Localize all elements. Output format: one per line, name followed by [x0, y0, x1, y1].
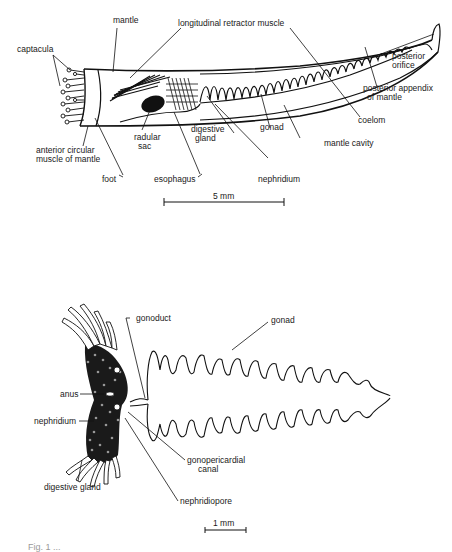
label-anterior-circular-2: muscle of mantle	[36, 155, 100, 164]
label-longitudinal-retractor-muscle: longitudinal retractor muscle	[178, 19, 284, 28]
label-posterior-orifice-2: orifice	[392, 61, 415, 70]
top-leader-lines	[53, 28, 434, 177]
label-nephridium-top: nephridium	[258, 175, 300, 184]
radular-sac-shape	[139, 92, 167, 115]
label-foot: foot	[102, 175, 116, 184]
scale-bar-label-bottom: 1 mm	[213, 519, 234, 528]
label-mantle-cavity: mantle cavity	[324, 139, 374, 148]
label-esophagus: esophagus	[154, 175, 196, 184]
label-gonoduct: gonoduct	[136, 314, 171, 323]
label-mantle: mantle	[113, 16, 139, 25]
label-digestive-gland-bottom: digestive gland	[44, 483, 101, 492]
label-anus: anus	[60, 390, 78, 399]
label-captacula: captacula	[17, 45, 53, 54]
gonad-outline	[130, 351, 390, 441]
label-gonopericardial-2: canal	[198, 465, 218, 474]
top-body-drawing	[80, 24, 440, 126]
label-digestive-gland-2: gland	[195, 134, 216, 143]
label-posterior-appendix-2: of mantle	[367, 93, 402, 102]
captacula-tentacles	[61, 68, 84, 124]
scale-bar-label-top: 5 mm	[213, 192, 234, 201]
label-nephridium-bottom: nephridium	[34, 417, 76, 426]
label-gonad-bottom: gonad	[271, 316, 295, 325]
label-coelom: coelom	[358, 116, 385, 125]
digestive-gland-mass	[85, 344, 128, 463]
figure-caption: Fig. 1 ...	[28, 542, 61, 552]
label-nephridiopore: nephridiopore	[180, 497, 232, 506]
label-radular-sac-2: sac	[138, 142, 151, 151]
label-gonad-top: gonad	[260, 123, 284, 132]
upper-tubules	[62, 304, 117, 350]
